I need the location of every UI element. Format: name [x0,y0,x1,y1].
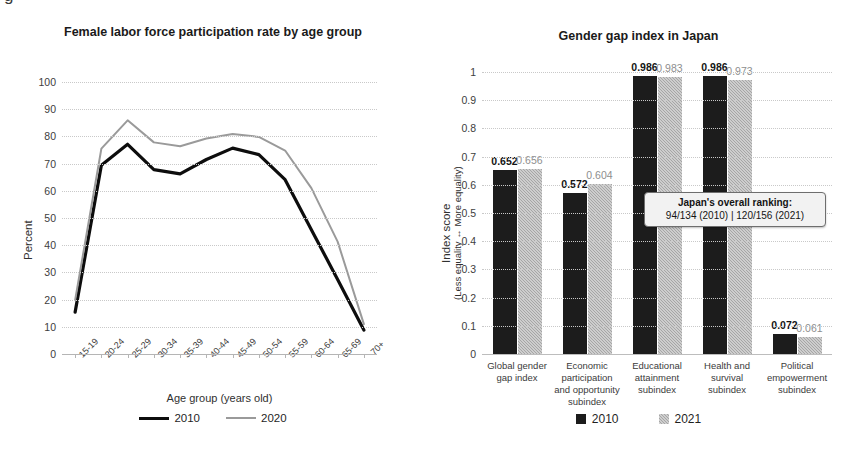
bar-value-label: 0.572 [561,178,587,190]
line-gridline [62,136,377,137]
line-gridline [62,191,377,192]
line-y-tick-label: 30 [44,266,56,278]
line-x-tick: 65-69 [329,352,352,375]
line-y-tick-label: 100 [38,76,56,88]
bar-category-label: Health and survival subindex [692,360,762,409]
legend-swatch-line-2010 [139,417,169,420]
bar-y-tick-label: 0.9 [461,94,476,106]
line-chart-panel: Female labor force participation rate by… [0,0,426,459]
line-x-axis-line [62,354,377,355]
line-gridline [62,300,377,301]
line-x-tick: 70+ [358,355,376,373]
bar-2021-5[interactable]: 0.061 [798,337,822,354]
bar-gridline [482,185,832,186]
line-gridline [62,109,377,110]
bar-legend-label-2021: 2021 [675,412,702,426]
bar-value-label: 0.072 [771,319,797,331]
legend-item-2020[interactable]: 2020 [226,412,287,424]
bar-legend-item-2021[interactable]: 2021 [659,412,702,426]
bar-legend-swatch-2021 [659,414,669,424]
ranking-callout-header: Japan's overall ranking: [654,197,816,208]
line-gridline [62,327,377,328]
bar-y-tick-label: 0.7 [461,151,476,163]
bar-y-tick-label: 0.1 [461,320,476,332]
figure-container: g Female labor force participation rate … [0,0,851,459]
line-gridline [62,218,377,219]
bar-gridline [482,354,832,355]
bar-category-label: Economic participation and opportunity s… [552,360,622,409]
bar-gridline [482,326,832,327]
line-y-tick-label: 10 [44,321,56,333]
bar-gridline [482,157,832,158]
line-x-tick: 20-24 [93,352,116,375]
bar-chart-legend: 2010 2021 [426,412,851,426]
bar-y-tick-label: 0 [470,348,476,360]
bar-chart-title: Gender gap index in Japan [426,28,851,45]
bar-gridline [482,128,832,129]
line-x-tick: 55-59 [277,352,300,375]
line-chart-legend: 2010 2020 [0,412,426,424]
line-gridline [62,82,377,83]
line-plot-area: 0102030405060708090100 [62,82,377,354]
bar-legend-swatch-2010 [576,414,586,424]
line-x-tick: 40-44 [198,352,221,375]
bar-legend-item-2010[interactable]: 2010 [576,412,619,426]
bar-gridline [482,100,832,101]
line-y-tick-label: 60 [44,185,56,197]
line-x-tick: 45-49 [224,352,247,375]
ranking-callout: Japan's overall ranking: 94/134 (2010) |… [644,192,826,227]
line-x-tick: 30-34 [146,352,169,375]
line-y-tick-label: 50 [44,212,56,224]
bar-2010-5[interactable]: 0.072 [773,334,797,354]
bar-gridline [482,269,832,270]
bar-category-labels: Global gender gap indexEconomic particip… [482,360,832,409]
line-x-tick: 35-39 [172,352,195,375]
legend-item-2010[interactable]: 2010 [139,412,200,424]
line-chart-y-axis-title: Percent [22,220,34,260]
line-y-tick-label: 70 [44,158,56,170]
bar-y-tick-label: 0.8 [461,122,476,134]
line-x-tick: 60-64 [303,352,326,375]
bar-category-label: Political empowerment subindex [762,360,832,409]
bar-gridline [482,298,832,299]
bar-y-tick-label: 0.3 [461,263,476,275]
legend-label-2020: 2020 [261,412,287,424]
line-y-tick-label: 20 [44,294,56,306]
line-series-2010 [75,144,364,330]
line-gridline [62,164,377,165]
line-x-tick: 50-54 [251,352,274,375]
line-y-tick-label: 90 [44,103,56,115]
legend-swatch-line-2020 [226,417,256,419]
line-y-tick-label: 80 [44,130,56,142]
line-y-tick-label: 0 [50,348,56,360]
bar-legend-label-2010: 2010 [592,412,619,426]
bar-chart-panel: Gender gap index in Japan Index score (L… [426,0,851,459]
bar-y-tick-label: 0.4 [461,235,476,247]
bar-2010-2[interactable]: 0.572 [563,193,587,354]
line-x-tick: 15-19 [67,352,90,375]
line-x-tick: 25-29 [119,352,142,375]
bar-gridline [482,241,832,242]
bar-y-tick-label: 1 [470,66,476,78]
bar-y-tick-label: 0.5 [461,207,476,219]
ranking-callout-row: 94/134 (2010) | 120/156 (2021) [654,210,816,221]
bar-gridline [482,72,832,73]
bar-category-label: Global gender gap index [482,360,552,409]
line-y-tick-label: 40 [44,239,56,251]
line-chart-x-axis-title: Age group (years old) [62,392,377,404]
line-gridline [62,272,377,273]
bar-chart-y-axis-title-main: Index score [440,203,452,262]
line-chart-title: Female labor force participation rate by… [0,24,426,41]
bar-y-tick-label: 0.2 [461,292,476,304]
line-gridline [62,245,377,246]
legend-label-2010: 2010 [174,412,200,424]
bar-category-label: Educational attainment subindex [622,360,692,409]
bar-y-tick-label: 0.6 [461,179,476,191]
bar-chart-y-axis-title: Index score (Less equality ↔ More equali… [440,166,463,300]
bar-value-label: 0.973 [726,65,752,77]
bar-value-label: 0.604 [586,169,612,181]
bar-value-label: 0.061 [796,322,822,334]
